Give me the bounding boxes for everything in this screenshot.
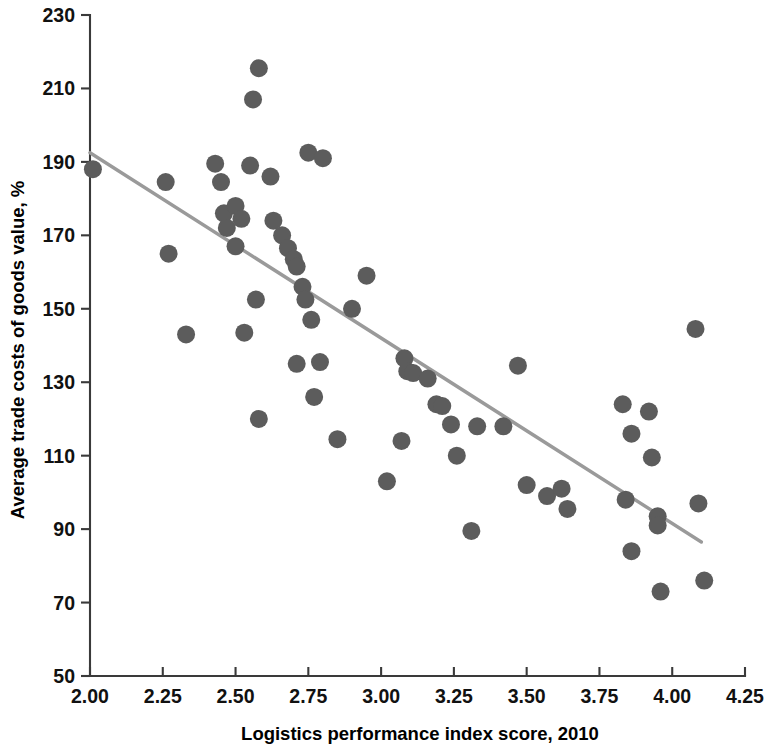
scatter-point bbox=[250, 59, 268, 77]
scatter-point bbox=[433, 397, 451, 415]
plot-canvas: 507090110130150170190210230 2.002.252.50… bbox=[0, 0, 764, 748]
scatter-point bbox=[244, 90, 262, 108]
scatter-point bbox=[343, 300, 361, 318]
scatter-point bbox=[328, 430, 346, 448]
y-axis-tick-label: 210 bbox=[42, 77, 75, 99]
x-axis-tick-label: 2.00 bbox=[71, 685, 109, 707]
scatter-point bbox=[695, 572, 713, 590]
scatter-point bbox=[212, 173, 230, 191]
x-axis-tick-label: 4.00 bbox=[653, 685, 691, 707]
scatter-point bbox=[241, 157, 259, 175]
scatter-point bbox=[419, 370, 437, 388]
x-axis-tick-label: 3.25 bbox=[435, 685, 473, 707]
y-axis-tick-label: 170 bbox=[42, 224, 75, 246]
data-points bbox=[84, 59, 713, 600]
y-axis-tick-label: 110 bbox=[44, 445, 76, 467]
scatter-point bbox=[687, 320, 705, 338]
x-axis-tick-label: 3.00 bbox=[362, 685, 400, 707]
scatter-point bbox=[160, 245, 178, 263]
scatter-point bbox=[288, 258, 306, 276]
scatter-point bbox=[462, 522, 480, 540]
scatter-point bbox=[518, 476, 536, 494]
scatter-point bbox=[622, 425, 640, 443]
y-axis-tick-label: 90 bbox=[53, 518, 75, 540]
x-axis-tick-label: 3.50 bbox=[508, 685, 546, 707]
scatter-point bbox=[296, 291, 314, 309]
scatter-point bbox=[227, 237, 245, 255]
scatter-point bbox=[311, 353, 329, 371]
scatter-point bbox=[250, 410, 268, 428]
y-axis-tick-label: 130 bbox=[42, 371, 75, 393]
scatter-point bbox=[558, 500, 576, 518]
scatter-point bbox=[84, 160, 102, 178]
scatter-point bbox=[553, 480, 571, 498]
scatter-point bbox=[157, 173, 175, 191]
scatter-chart-figure: 507090110130150170190210230 2.002.252.50… bbox=[0, 0, 764, 748]
scatter-point bbox=[235, 324, 253, 342]
scatter-point bbox=[622, 542, 640, 560]
scatter-point bbox=[314, 149, 332, 167]
x-axis-title: Logistics performance index score, 2010 bbox=[241, 723, 599, 744]
scatter-point bbox=[232, 210, 250, 228]
scatter-point bbox=[643, 449, 661, 467]
y-axis-title: Average trade costs of goods value, % bbox=[7, 181, 28, 520]
y-axis-tick-label: 50 bbox=[53, 665, 75, 687]
scatter-point bbox=[468, 417, 486, 435]
scatter-point bbox=[617, 491, 635, 509]
scatter-point bbox=[302, 311, 320, 329]
scatter-point bbox=[392, 432, 410, 450]
scatter-point bbox=[442, 415, 460, 433]
scatter-point bbox=[448, 447, 466, 465]
scatter-point bbox=[177, 325, 195, 343]
scatter-point bbox=[358, 267, 376, 285]
scatter-point bbox=[649, 516, 667, 534]
x-axis-tick-label: 2.25 bbox=[144, 685, 182, 707]
scatter-point bbox=[614, 395, 632, 413]
scatter-point bbox=[288, 355, 306, 373]
scatter-point bbox=[261, 168, 279, 186]
y-axis-tick-label: 230 bbox=[42, 4, 75, 26]
scatter-point bbox=[305, 388, 323, 406]
scatter-point bbox=[509, 357, 527, 375]
y-axis-tick-label: 150 bbox=[42, 298, 75, 320]
x-axis: 2.002.252.502.753.003.253.503.754.004.25 bbox=[71, 667, 764, 707]
scatter-point bbox=[689, 494, 707, 512]
x-axis-tick-label: 3.75 bbox=[580, 685, 618, 707]
scatter-point bbox=[247, 291, 265, 309]
x-axis-tick-label: 2.50 bbox=[217, 685, 255, 707]
scatter-point bbox=[494, 417, 512, 435]
y-axis-tick-label: 190 bbox=[42, 151, 75, 173]
y-axis-tick-label: 70 bbox=[53, 592, 75, 614]
trend-line bbox=[90, 153, 701, 542]
scatter-point bbox=[206, 155, 224, 173]
regression-line bbox=[90, 153, 701, 542]
scatter-point bbox=[378, 472, 396, 490]
y-axis: 507090110130150170190210230 bbox=[42, 4, 90, 687]
x-axis-tick-label: 4.25 bbox=[726, 685, 764, 707]
scatter-point bbox=[652, 583, 670, 601]
x-axis-tick-label: 2.75 bbox=[289, 685, 327, 707]
scatter-point bbox=[640, 403, 658, 421]
